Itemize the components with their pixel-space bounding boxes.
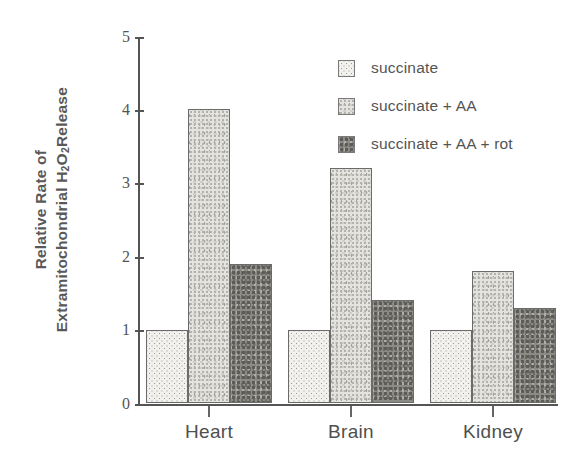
y-tick-label-5: 5	[94, 29, 130, 45]
bar-kidney-succinate	[430, 330, 472, 403]
y-axis-title-line2: Extramitochondrial H2O2Release	[52, 87, 74, 332]
bar-kidney-succinate-aa-rot	[514, 308, 556, 403]
x-tick-mark-heart	[208, 406, 210, 417]
y-axis-title-text: Relative Rate of Extramitochondrial H2O2…	[30, 87, 73, 332]
legend-swatch-succinate-aa-rot-icon	[338, 136, 355, 153]
bar-brain-succinate	[288, 330, 330, 403]
chart-legend: succinate succinate + AA succinate + AA …	[338, 49, 568, 163]
legend-label-succinate: succinate	[371, 59, 438, 77]
y-tick-4: 4	[94, 110, 146, 111]
bar-kidney-succinate-aa	[472, 271, 514, 403]
y-tick-label-3: 3	[94, 175, 130, 191]
bar-brain-succinate-aa	[330, 168, 372, 403]
bar-heart-succinate-aa	[188, 109, 230, 403]
y-tick-mark-2	[135, 257, 144, 259]
y-tick-mark-1	[135, 330, 144, 332]
legend-label-succinate-aa: succinate + AA	[371, 97, 477, 115]
x-tick-label-brain: Brain	[328, 421, 374, 443]
x-tick-label-heart: Heart	[185, 421, 233, 443]
x-tick-label-kidney: Kidney	[463, 421, 523, 443]
y-tick-mark-3	[135, 183, 144, 185]
y-axis-title: Relative Rate of Extramitochondrial H2O2…	[2, 0, 102, 420]
legend-label-succinate-aa-rot: succinate + AA + rot	[371, 135, 513, 153]
x-tick-mark-brain	[350, 406, 352, 417]
legend-item-succinate-aa: succinate + AA	[338, 87, 568, 125]
y-tick-label-1: 1	[94, 322, 130, 338]
bar-brain-succinate-aa-rot	[372, 300, 414, 403]
y-tick-label-2: 2	[94, 249, 130, 265]
legend-item-succinate-aa-rot: succinate + AA + rot	[338, 125, 568, 163]
y-tick-label-4: 4	[94, 102, 130, 118]
y-tick-label-0: 0	[94, 396, 130, 412]
x-axis-line	[138, 404, 558, 406]
y-axis-title-sub-1: 2	[60, 166, 72, 172]
y-axis-title-line1: Relative Rate of	[30, 87, 51, 332]
bar-heart-succinate	[146, 330, 188, 403]
y-axis-title-sub-2: 2	[60, 147, 72, 153]
y-axis-title-line2-post: Release	[54, 87, 71, 147]
y-axis-title-line2-pre: Extramitochondrial H	[54, 172, 71, 333]
y-axis-line	[138, 37, 140, 406]
bar-heart-succinate-aa-rot	[230, 264, 272, 404]
y-tick-3: 3	[94, 184, 146, 185]
y-tick-2: 2	[94, 257, 146, 258]
y-tick-5: 5	[94, 37, 146, 38]
legend-swatch-succinate-icon	[338, 60, 355, 77]
y-tick-mark-4	[135, 110, 144, 112]
y-tick-mark-5	[135, 37, 144, 39]
y-axis-title-line2-mid: O	[54, 153, 71, 165]
bar-chart-figure: Relative Rate of Extramitochondrial H2O2…	[0, 0, 574, 459]
legend-item-succinate: succinate	[338, 49, 568, 87]
legend-swatch-succinate-aa-icon	[338, 98, 355, 115]
y-tick-0: 0	[94, 404, 146, 405]
y-tick-1: 1	[94, 331, 146, 332]
y-tick-mark-0	[135, 404, 144, 406]
x-tick-mark-kidney	[492, 406, 494, 417]
